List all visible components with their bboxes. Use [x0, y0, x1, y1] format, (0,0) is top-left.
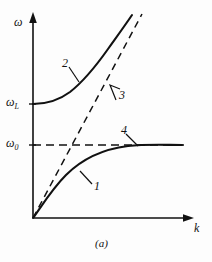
y-axis: [29, 12, 37, 218]
light-line-curve-3: [33, 14, 142, 218]
x-axis-label: k: [194, 222, 199, 234]
lower-branch-curve-1: [33, 145, 182, 218]
polariton-dispersion-figure: ω k ωL ω0 2 3 4 1 (a): [0, 0, 212, 262]
tick-label-omega-0-subscript: 0: [14, 143, 18, 152]
tick-label-omega-0: ω0: [6, 137, 18, 152]
leader-line-2: [69, 67, 79, 82]
curve-label-2: 2: [62, 57, 68, 69]
y-axis-label: ω: [14, 16, 22, 28]
tick-label-omega-l: ωL: [6, 96, 19, 111]
x-axis: [33, 214, 194, 222]
tick-label-omega-l-subscript: L: [14, 102, 18, 111]
plot-canvas: [0, 0, 212, 262]
curve-label-4: 4: [121, 124, 127, 136]
curve-label-3: 3: [119, 89, 125, 101]
figure-caption: (a): [95, 238, 108, 249]
upper-branch-curve-2: [33, 15, 132, 104]
curve-label-1: 1: [94, 180, 100, 192]
leader-line-1: [80, 171, 92, 184]
leader-line-4: [126, 134, 138, 146]
